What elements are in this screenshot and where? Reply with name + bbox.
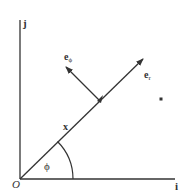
- axis-label-i: i: [175, 180, 178, 192]
- ephi-label: eϕ: [64, 51, 72, 64]
- radial-vector-er: [20, 59, 143, 179]
- axis-label-j: j: [22, 17, 27, 29]
- angle-arc-phi: [58, 142, 74, 180]
- angle-label-phi: ϕ: [44, 160, 50, 172]
- position-vector-label: x: [63, 121, 68, 132]
- er-label: er: [144, 69, 151, 82]
- polar-diagram: j i O x ϕ er eϕ: [0, 0, 189, 196]
- angular-vector-ephi: [66, 67, 100, 101]
- point-marker: [160, 98, 163, 101]
- origin-label: O: [12, 178, 20, 190]
